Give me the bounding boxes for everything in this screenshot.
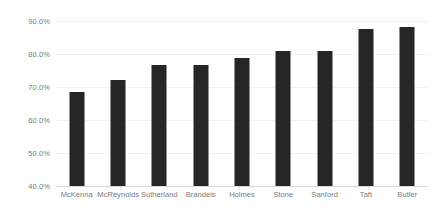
x-axis-tick-label: Taft bbox=[345, 190, 386, 199]
bar-slot bbox=[56, 21, 97, 186]
bar-slot bbox=[180, 21, 221, 186]
bar-slot bbox=[263, 21, 304, 186]
bar[interactable] bbox=[110, 80, 125, 186]
bar-slot bbox=[387, 21, 428, 186]
y-axis-tick-label: 80.0% bbox=[4, 50, 50, 59]
bar-chart: McKennaMcReynoldsSutherlandBrandeisHolme… bbox=[0, 0, 438, 220]
bar[interactable] bbox=[400, 27, 415, 186]
x-axis-tick-label: Sutherland bbox=[139, 190, 180, 199]
bar[interactable] bbox=[358, 29, 373, 186]
y-axis-tick-label: 70.0% bbox=[4, 83, 50, 92]
axis-baseline bbox=[56, 186, 428, 187]
bar[interactable] bbox=[152, 65, 167, 186]
bar[interactable] bbox=[276, 51, 291, 186]
bar[interactable] bbox=[234, 58, 249, 186]
plot-area bbox=[56, 21, 428, 186]
x-axis-tick-labels: McKennaMcReynoldsSutherlandBrandeisHolme… bbox=[56, 190, 428, 208]
bar-series bbox=[56, 21, 428, 186]
x-axis-tick-label: Holmes bbox=[221, 190, 262, 199]
y-axis-tick-label: 60.0% bbox=[4, 116, 50, 125]
x-axis-tick-label: Stone bbox=[263, 190, 304, 199]
y-axis-tick-label: 50.0% bbox=[4, 149, 50, 158]
bar-slot bbox=[221, 21, 262, 186]
bar[interactable] bbox=[69, 92, 84, 186]
bar-slot bbox=[97, 21, 138, 186]
bar[interactable] bbox=[317, 51, 332, 186]
x-axis-tick-label: Sanford bbox=[304, 190, 345, 199]
bar[interactable] bbox=[193, 65, 208, 186]
x-axis-tick-label: McReynolds bbox=[97, 190, 138, 199]
y-axis-tick-label: 90.0% bbox=[4, 17, 50, 26]
bar-slot bbox=[304, 21, 345, 186]
x-axis-tick-label: Brandeis bbox=[180, 190, 221, 199]
x-axis-tick-label: McKenna bbox=[56, 190, 97, 199]
x-axis-tick-label: Butler bbox=[387, 190, 428, 199]
bar-slot bbox=[139, 21, 180, 186]
y-axis-tick-label: 40.0% bbox=[4, 182, 50, 191]
bar-slot bbox=[345, 21, 386, 186]
